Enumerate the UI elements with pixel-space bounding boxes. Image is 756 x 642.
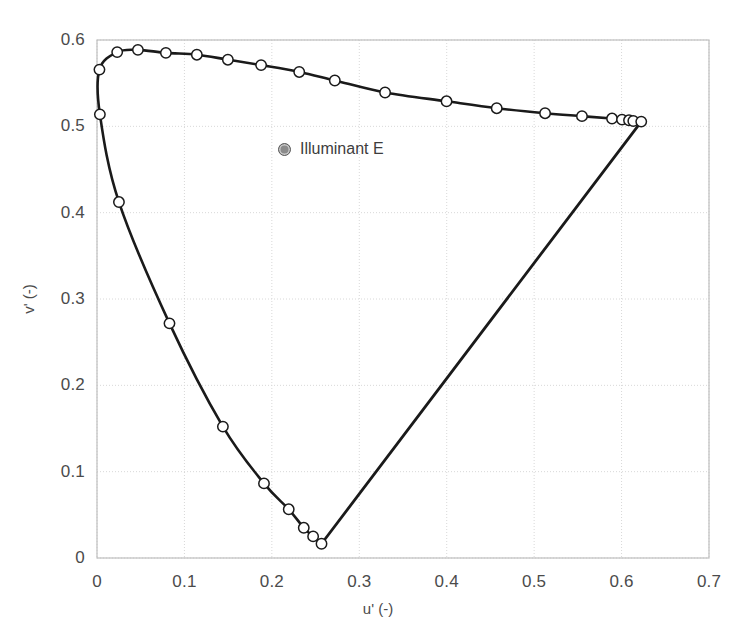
data-point-markers xyxy=(94,45,646,549)
x-axis-title: u' (-) xyxy=(363,600,393,617)
x-tick-label: 0.7 xyxy=(697,572,721,592)
y-tick-label: 0.2 xyxy=(39,375,85,395)
legend: Illuminant E xyxy=(278,140,384,158)
y-tick-label: 0.1 xyxy=(39,462,85,482)
x-tick-label: 0.6 xyxy=(609,572,633,592)
y-tick-label: 0.4 xyxy=(39,203,85,223)
y-tick-label: 0 xyxy=(39,548,85,568)
x-tick-label: 0.5 xyxy=(522,572,546,592)
illuminant-e-marker-icon xyxy=(278,143,291,156)
chromaticity-chart: 00.10.20.30.40.50.60.7 00.10.20.30.40.50… xyxy=(0,0,756,642)
y-tick-label: 0.6 xyxy=(39,30,85,50)
spectral-locus-line xyxy=(97,50,641,544)
x-tick-label: 0.4 xyxy=(435,572,459,592)
y-axis-title: v' (-) xyxy=(20,284,37,314)
x-tick-label: 0.3 xyxy=(347,572,371,592)
x-tick-label: 0.1 xyxy=(172,572,196,592)
legend-label-illuminant-e: Illuminant E xyxy=(300,140,384,158)
y-tick-label: 0.3 xyxy=(39,289,85,309)
plot-canvas xyxy=(0,0,756,642)
x-tick-label: 0 xyxy=(92,572,102,592)
y-tick-label: 0.5 xyxy=(39,116,85,136)
x-tick-label: 0.2 xyxy=(260,572,284,592)
